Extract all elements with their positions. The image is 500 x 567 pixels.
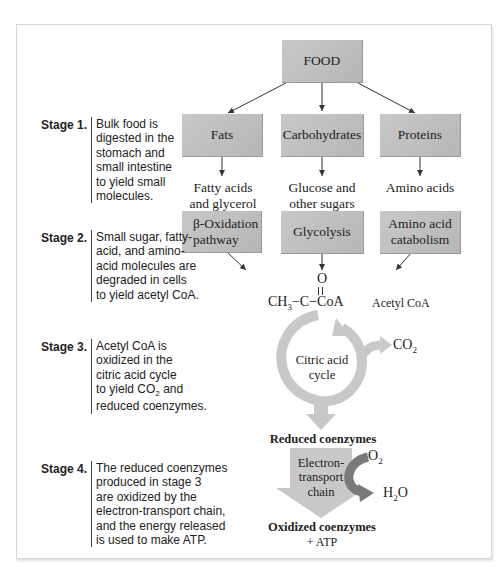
stage-3: Stage 3. Acetyl CoA is oxidized in the c… — [40, 339, 207, 414]
reduced-coenzymes-label: Reduced coenzymes — [262, 432, 384, 447]
stage-2-text: Small sugar, fatty- acid, and amino- aci… — [91, 230, 199, 302]
atp-label: + ATP — [258, 535, 386, 549]
h2o-label: H2O — [383, 485, 408, 504]
o2-label: O2 — [368, 448, 383, 467]
carbohydrates-box: Carbohydrates — [281, 114, 364, 157]
acetyl-coa-label: Acetyl CoA — [372, 296, 430, 310]
stage-4-text: The reduced coenzymes produced in stage … — [91, 461, 227, 547]
amino-acid-catabolism-box: Amino acidcatabolism — [380, 211, 461, 254]
stage-2: Stage 2. Small sugar, fatty- acid, and a… — [40, 230, 199, 302]
proteins-box: Proteins — [380, 114, 461, 157]
fats-box: Fats — [182, 114, 263, 157]
stage-1-text: Bulk food is digested in the stomach and… — [91, 117, 174, 203]
stage-4: Stage 4. The reduced coenzymes produced … — [40, 461, 227, 547]
stage-1: Stage 1. Bulk food is digested in the st… — [40, 117, 174, 203]
bond-dash: − — [309, 294, 317, 309]
fatty-acids-label: Fatty acids and glycerol — [182, 180, 264, 212]
food-box: FOOD — [282, 40, 363, 83]
stage-3-text: Acetyl CoA is oxidized in the citric aci… — [91, 339, 207, 414]
acetyl-oxygen: O — [315, 271, 329, 288]
citric-acid-cycle-label: Citric acid cycle — [290, 353, 354, 383]
glycolysis-box: Glycolysis — [281, 211, 364, 254]
co2-label: CO2 — [393, 337, 417, 356]
bond-dash: − — [292, 294, 300, 309]
glucose-label: Glucose and other sugars — [280, 180, 364, 212]
etc-label: Electron- transport chain — [288, 456, 354, 499]
oxidized-coenzymes-label: Oxidized coenzymes — [258, 520, 386, 535]
amino-acids-label: Amino acids — [378, 180, 462, 196]
